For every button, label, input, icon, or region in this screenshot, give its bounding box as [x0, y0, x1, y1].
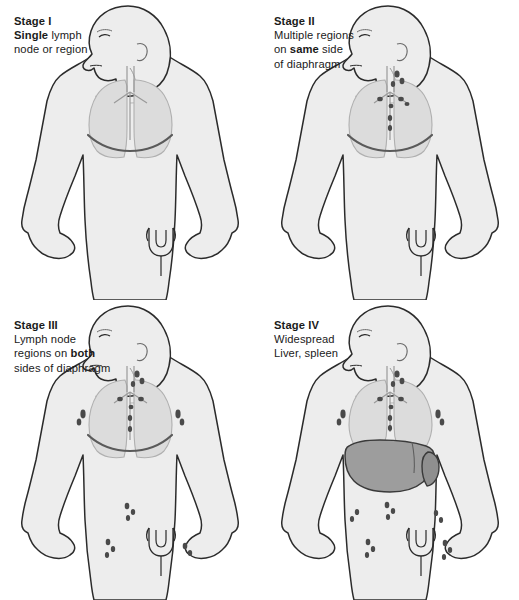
caption-line-3: Liver, spleen: [274, 346, 402, 360]
caption-line-1: Stage IV: [274, 318, 402, 332]
caption-line-2: Lymph node: [14, 332, 142, 346]
caption-stage-3: Stage III Lymph node regions on both sid…: [14, 318, 142, 375]
caption-line-4: sides of diaphragm: [14, 361, 142, 375]
panel-stage-2: Stage II Multiple regions on same side o…: [260, 0, 519, 300]
panel-stage-3: Stage III Lymph node regions on both sid…: [0, 300, 259, 600]
caption-line-1: Stage I: [14, 14, 142, 28]
caption-stage-4: Stage IV Widespread Liver, spleen: [274, 318, 402, 361]
caption-line-3: on same side: [274, 42, 402, 56]
caption-line-2: Single lymph: [14, 28, 142, 42]
caption-stage-1: Stage I Single lymph node or region: [14, 14, 142, 57]
caption-line-1: Stage II: [274, 14, 402, 28]
caption-line-1: Stage III: [14, 318, 142, 332]
panel-stage-4: Stage IV Widespread Liver, spleen: [260, 300, 519, 600]
liver: [345, 440, 434, 492]
panel-stage-1: Stage I Single lymph node or region: [0, 0, 259, 300]
caption-line-2: Multiple regions: [274, 28, 402, 42]
caption-line-3: regions on both: [14, 346, 142, 360]
caption-line-4: of diaphragm: [274, 57, 402, 71]
caption-line-3: node or region: [14, 42, 142, 56]
caption-line-2: Widespread: [274, 332, 402, 346]
lymphoma-staging-figure: Stage I Single lymph node or region: [0, 0, 519, 600]
caption-stage-2: Stage II Multiple regions on same side o…: [274, 14, 402, 71]
